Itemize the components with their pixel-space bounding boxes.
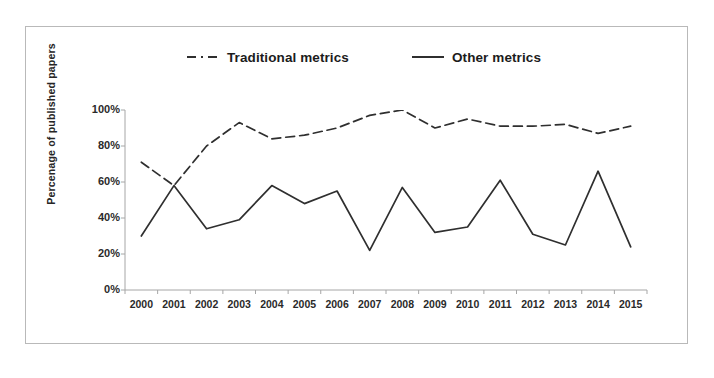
legend-label-other-metrics: Other metrics (452, 50, 541, 65)
y-tick-label: 20% (76, 248, 120, 259)
series-line-other-metrics (141, 171, 630, 250)
y-tick-label: 60% (76, 176, 120, 187)
chart-legend: Traditional metrics Other metrics (186, 45, 556, 69)
y-tick-label: 80% (76, 140, 120, 151)
plot-area (125, 110, 647, 290)
solid-line-swatch-icon (411, 51, 445, 63)
legend-label-traditional-metrics: Traditional metrics (227, 50, 349, 65)
legend-entry-other-metrics: Other metrics (411, 50, 541, 65)
y-tick-label: 40% (76, 212, 120, 223)
legend-entry-traditional-metrics: Traditional metrics (186, 50, 349, 65)
series-line-traditional-metrics (141, 110, 630, 186)
x-tick-label: 2015 (611, 299, 651, 310)
y-axis-title: Percenage of published papers (45, 29, 57, 219)
y-axis-tick-labels: 100%80%60%40%20%0% (68, 0, 120, 378)
dashed-line-swatch-icon (186, 51, 220, 63)
chart-figure: Traditional metrics Other metrics Percen… (0, 0, 714, 378)
x-axis-tick-labels: 2000200120022003200420052006200720082009… (125, 299, 647, 319)
y-tick-label: 0% (76, 284, 120, 295)
y-tick-label: 100% (76, 104, 120, 115)
